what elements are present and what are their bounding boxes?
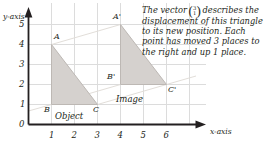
x-tick-6: 6 (164, 131, 169, 140)
vector-right-paren: ) (196, 3, 201, 18)
y-tick-1: 1 (20, 100, 25, 109)
x-tick-1: 1 (49, 131, 54, 140)
vertex-label-c: C (93, 106, 99, 114)
x-tick-4: 4 (118, 131, 123, 140)
x-axis-arrowhead (196, 120, 207, 128)
x-tick-2: 2 (72, 131, 77, 140)
x-tick-3: 3 (95, 131, 100, 140)
translation-vector-diagram: 0 1 2 3 4 5 1 2 3 4 5 6 y-axis x-axis A … (0, 0, 270, 145)
y-tick-4: 4 (19, 40, 24, 49)
y-tick-0: 0 (19, 120, 24, 129)
y-tick-5: 5 (19, 20, 24, 29)
y-tick-3: 3 (19, 60, 24, 69)
vertex-label-a-prime: A' (113, 13, 121, 21)
x-tick-5: 5 (141, 131, 146, 140)
x-axis-title: x-axis (210, 128, 232, 136)
note-part1: The vector (142, 5, 187, 15)
vertex-label-a: A (54, 33, 60, 41)
connector-a-to-aprime (52, 25, 121, 45)
column-vector: (31) (188, 6, 201, 16)
connector-extend-cprime (167, 76, 197, 85)
vertex-label-b-prime: B' (107, 73, 115, 81)
y-tick-2: 2 (19, 80, 24, 89)
object-label: Object (55, 112, 83, 121)
vertex-label-b: B (44, 106, 50, 114)
y-axis-title: y-axis (3, 13, 25, 21)
vertex-label-c-prime: C' (168, 86, 176, 94)
image-label: Image (116, 95, 143, 104)
y-axis-arrowhead (25, 7, 33, 18)
explanation-note: The vector(31)describes the displacement… (142, 5, 268, 57)
